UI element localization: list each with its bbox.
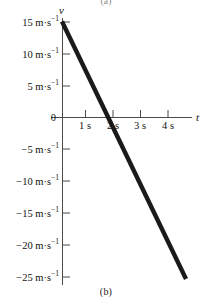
y-tick-label-neg25: −25 m·s−1 (16, 272, 59, 283)
y-tick-label-5: 5 m·s−1 (27, 81, 59, 92)
y-tick-label-neg5: −5 m·s−1 (21, 144, 59, 155)
x-tick-label-3s: 3 s (134, 120, 146, 131)
y-tick-label-neg15: −15 m·s−1 (16, 208, 59, 219)
y-tick-label-15: 15 m·s−1 (22, 17, 59, 28)
velocity-line (62, 22, 186, 280)
x-tick-label-1s: 1 s (79, 120, 91, 131)
velocity-time-plot: 15 m·s−1 10 m·s−1 5 m·s−1 −5 m·s−1 −10 m… (0, 0, 212, 299)
y-axis-name: v (59, 5, 64, 16)
y-tick-label-neg20: −20 m·s−1 (16, 240, 59, 251)
y-tick-label-10: 10 m·s−1 (22, 49, 59, 60)
x-tick-label-4s: 4 s (162, 120, 174, 131)
y-tick-label-neg10: −10 m·s−1 (16, 176, 59, 187)
x-tick-label-2s: 2 s (107, 120, 119, 131)
origin-label: 0 (51, 112, 56, 123)
figure-root: (a) 15 m·s−1 (0, 0, 212, 299)
x-axis-name: t (196, 112, 199, 123)
panel-caption-b: (b) (0, 287, 212, 297)
